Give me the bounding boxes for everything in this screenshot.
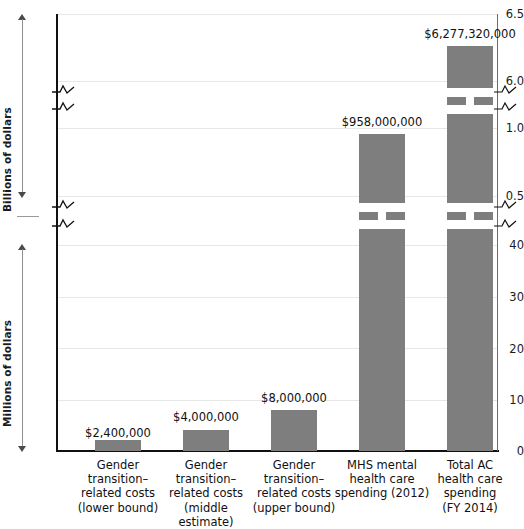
- gridline-20: [57, 348, 498, 349]
- axis-gap-divider: [17, 216, 39, 217]
- category-label-5-line-4: (FY 2014): [410, 501, 524, 515]
- right-axis-break-mark-lower-a: [492, 199, 518, 209]
- bar-value-label-4: $958,000,000: [322, 117, 442, 129]
- gridline-30: [57, 297, 498, 298]
- category-label-5: Total AC health care spending (FY 2014): [410, 458, 524, 515]
- bar-break-mark-4: [359, 203, 405, 229]
- y-axis-line: [56, 14, 58, 452]
- billions-range-arrow: [18, 14, 27, 198]
- right-axis-break-mark-upper-a: [492, 84, 518, 94]
- gridline-0-5: [57, 196, 498, 197]
- right-axis-break-mark-lower-b: [492, 218, 518, 228]
- bar-value-label-3: $8,000,000: [234, 393, 354, 405]
- gridline-40: [57, 245, 498, 246]
- arrow-shaft: [22, 19, 23, 193]
- left-axis-break-mark-lower-a: [50, 199, 76, 209]
- left-axis-break-mark-upper-b: [50, 101, 76, 111]
- arrow-tip-down-icon: [18, 192, 26, 198]
- y-axis-title-billions: Billions of dollars: [1, 62, 13, 212]
- left-axis-break-mark-lower-b: [50, 218, 76, 228]
- gridline-6-0: [57, 81, 498, 82]
- bar-gender-transition-upper-bound[interactable]: [271, 410, 317, 451]
- bar-break-mark-5-upper: [447, 88, 493, 114]
- category-label-5-line-2: health care: [410, 472, 524, 486]
- left-axis-break-mark-upper-a: [50, 84, 76, 94]
- arrow-shaft: [22, 249, 23, 447]
- right-axis-break-mark-upper-b: [492, 101, 518, 111]
- bar-gender-transition-lower-bound[interactable]: [95, 440, 141, 451]
- tick-label-6-5: 6.5: [478, 9, 524, 21]
- bar-gender-transition-middle-estimate[interactable]: [183, 430, 229, 451]
- category-label-2-line-5: estimate): [146, 515, 266, 529]
- bar-value-label-1: $2,400,000: [58, 428, 178, 440]
- millions-range-arrow: [18, 244, 27, 452]
- gridline-6-5: [57, 14, 498, 15]
- category-label-3-line-4: (upper bound): [234, 501, 354, 515]
- bar-mhs-mental-health-care-spending[interactable]: [359, 134, 405, 451]
- category-label-5-line-3: spending: [410, 486, 524, 500]
- bar-value-label-5: $6,277,320,000: [410, 29, 524, 41]
- bar-value-label-2: $4,000,000: [146, 412, 266, 424]
- bar-break-mark-5-lower: [447, 203, 493, 229]
- y-axis-title-millions: Millions of dollars: [1, 277, 13, 427]
- arrow-tip-down-icon: [18, 446, 26, 452]
- category-label-5-line-1: Total AC: [410, 458, 524, 472]
